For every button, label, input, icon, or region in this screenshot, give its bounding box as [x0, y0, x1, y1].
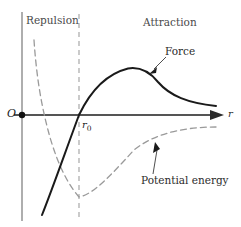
origin-dot	[19, 112, 25, 118]
curve-label-potential-energy: Potential energy	[141, 175, 229, 186]
region-label-attraction: Attraction	[143, 17, 197, 28]
figure-canvas	[0, 0, 241, 227]
axis-label-r: r	[228, 109, 233, 119]
region-label-repulsion: Repulsion	[26, 15, 79, 26]
axis-label-origin: O	[7, 108, 16, 119]
curve-label-force: Force	[165, 46, 195, 57]
axis-label-r-zero: r0	[82, 120, 92, 133]
r-zero-subscript: 0	[87, 124, 92, 133]
potential-energy-leader-line	[153, 150, 157, 174]
force-curve	[42, 68, 216, 215]
force-potential-energy-figure: Repulsion Attraction Force Potential ene…	[0, 0, 241, 227]
r-axis-arrowhead	[210, 110, 224, 120]
force-leader-line	[154, 57, 166, 69]
force-leader-arrowhead	[149, 67, 157, 74]
